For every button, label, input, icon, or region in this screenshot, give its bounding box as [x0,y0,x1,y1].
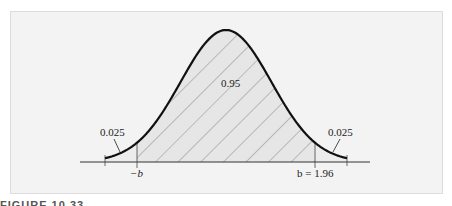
figure-caption: FIGURE 10.33 [0,199,84,206]
center-region [105,30,347,162]
left-tail-label: 0.025 [100,126,125,138]
center-area-label: 0.95 [221,77,240,89]
pos-b-label: b = 1.96 [297,167,333,179]
right-tail-leader [333,139,340,152]
neg-b-label: −b [130,167,143,179]
normal-curve-plot [0,0,452,206]
right-tail-label: 0.025 [328,126,353,138]
left-tail-leader [114,139,120,152]
